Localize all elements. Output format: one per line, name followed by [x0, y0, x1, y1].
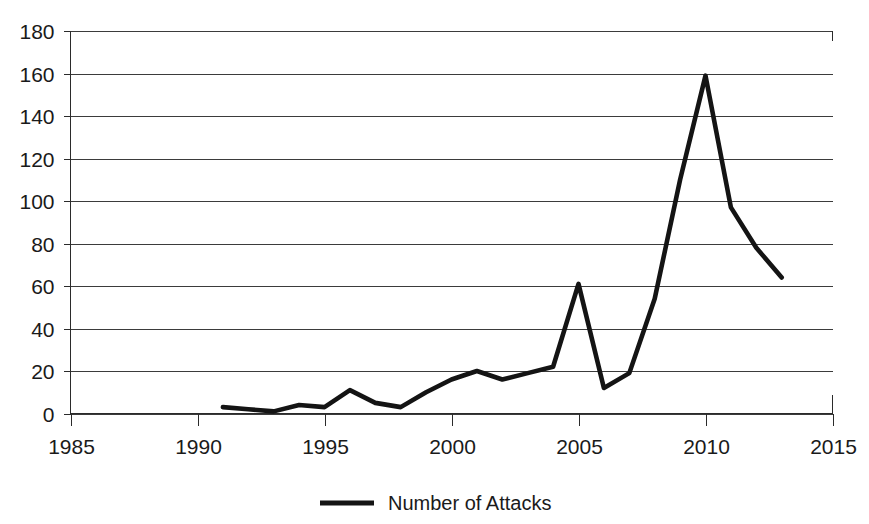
x-tick-label-1985: 1985	[48, 435, 95, 458]
chart-canvas: 020406080100120140160180 198519901995200…	[0, 0, 869, 524]
x-tick-label-2000: 2000	[429, 435, 476, 458]
y-tick-label-180: 180	[19, 20, 54, 43]
y-tick-label-20: 20	[31, 360, 54, 383]
y-tick-label-40: 40	[31, 318, 54, 341]
y-tick-label-80: 80	[31, 233, 54, 256]
x-tick-label-2010: 2010	[683, 435, 730, 458]
legend-label-number-of-attacks: Number of Attacks	[388, 492, 551, 514]
y-tick-label-160: 160	[19, 63, 54, 86]
x-tick-label-2005: 2005	[556, 435, 603, 458]
x-tick-label-2015: 2015	[810, 435, 857, 458]
y-tick-label-0: 0	[43, 403, 55, 426]
y-tick-label-60: 60	[31, 275, 54, 298]
y-tick-label-120: 120	[19, 148, 54, 171]
x-tick-label-1990: 1990	[175, 435, 222, 458]
x-tick-label-1995: 1995	[302, 435, 349, 458]
y-tick-label-140: 140	[19, 105, 54, 128]
y-tick-label-100: 100	[19, 190, 54, 213]
line-chart: 020406080100120140160180 198519901995200…	[0, 0, 869, 524]
